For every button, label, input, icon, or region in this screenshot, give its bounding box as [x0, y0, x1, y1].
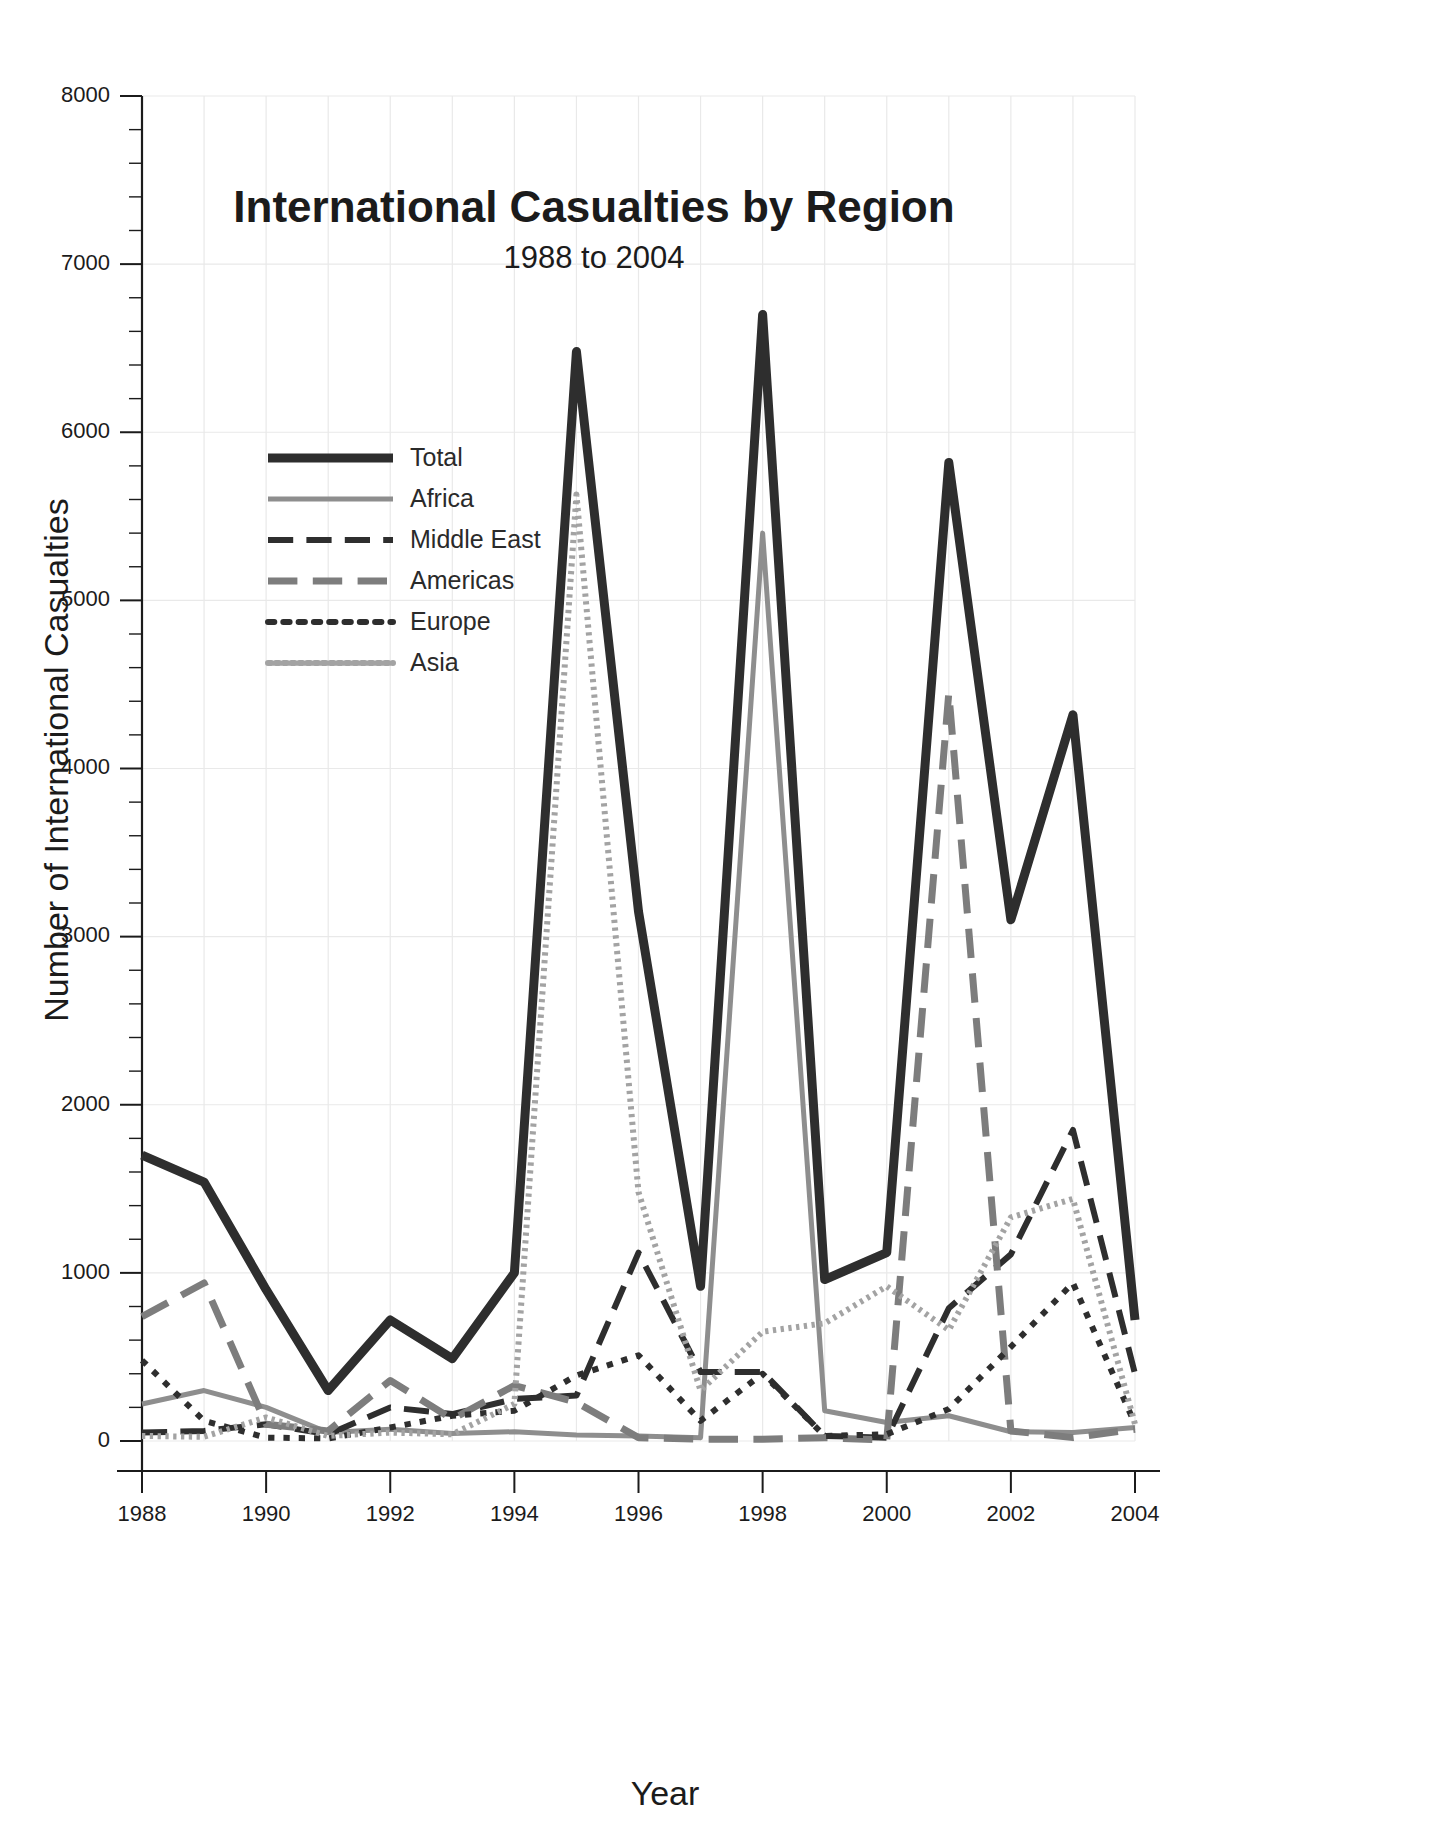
x-tick-label: 1988	[118, 1501, 167, 1526]
x-tick-label: 1998	[738, 1501, 787, 1526]
x-tick-label: 2000	[862, 1501, 911, 1526]
legend-label-total: Total	[410, 443, 463, 471]
y-tick-label: 2000	[61, 1091, 110, 1116]
legend-label-americas: Americas	[410, 566, 514, 594]
x-tick-label: 1992	[366, 1501, 415, 1526]
chart-figure: 010002000300040005000600070008000 198819…	[0, 0, 1441, 1846]
x-tick-label: 1996	[614, 1501, 663, 1526]
legend-label-europe: Europe	[410, 607, 491, 635]
chart-subtitle: 1988 to 2004	[503, 240, 684, 275]
chart-legend: TotalAfricaMiddle EastAmericasEuropeAsia	[268, 443, 541, 676]
y-tick-label: 1000	[61, 1259, 110, 1284]
line-chart: 010002000300040005000600070008000 198819…	[0, 0, 1441, 1846]
legend-label-africa: Africa	[410, 484, 474, 512]
y-tick-label: 0	[98, 1427, 110, 1452]
x-tick-label: 1994	[490, 1501, 539, 1526]
y-axis-label: Number of International Casualties	[37, 498, 75, 1022]
y-tick-label: 7000	[61, 250, 110, 275]
x-tick-label: 2004	[1111, 1501, 1160, 1526]
legend-label-asia: Asia	[410, 648, 459, 676]
x-axis-label: Year	[631, 1774, 700, 1812]
x-axis-tick-labels: 198819901992199419961998200020022004	[118, 1501, 1160, 1526]
x-tick-label: 2002	[986, 1501, 1035, 1526]
y-tick-label: 6000	[61, 418, 110, 443]
y-tick-label: 8000	[61, 82, 110, 107]
chart-title: International Casualties by Region	[233, 182, 954, 231]
x-tick-label: 1990	[242, 1501, 291, 1526]
legend-label-middle-east: Middle East	[410, 525, 541, 553]
